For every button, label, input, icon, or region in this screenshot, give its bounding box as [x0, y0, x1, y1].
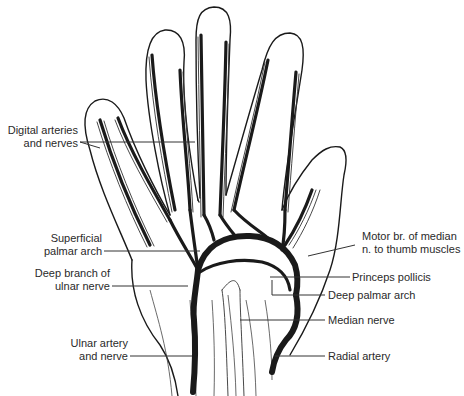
label-princeps-pollicis: Princeps pollicis	[352, 271, 431, 284]
label-motor-branch-median: Motor br. of median n. to thumb muscles	[362, 230, 460, 256]
hand-anatomy-figure: Digital arteries and nerves Superficial …	[0, 0, 464, 396]
label-median-nerve: Median nerve	[328, 314, 395, 327]
label-superficial-palmar-arch: Superficial palmar arch	[20, 232, 102, 258]
label-deep-palmar-arch: Deep palmar arch	[328, 289, 415, 302]
median-nerve-drawing	[222, 290, 228, 396]
label-deep-branch-ulnar-nerve: Deep branch of ulnar nerve	[6, 267, 110, 293]
ulnar-artery	[193, 270, 198, 392]
leader-lines	[80, 142, 355, 356]
label-ulnar-artery-nerve: Ulnar artery and nerve	[40, 337, 128, 363]
radial-artery	[272, 295, 298, 372]
label-radial-artery: Radial artery	[328, 350, 390, 363]
label-digital-arteries: Digital arteries and nerves	[4, 124, 78, 150]
deep-palmar-arch	[200, 260, 290, 290]
